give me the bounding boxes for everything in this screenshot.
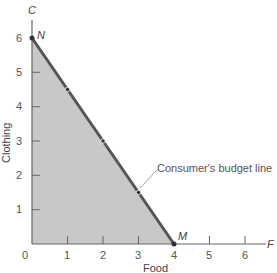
x-tick-label: 3 <box>135 249 141 261</box>
budget-line-chart: Consumer's budget line 1 2 3 4 5 6 0 1 2… <box>0 0 277 273</box>
y-tick-label: 1 <box>16 203 22 215</box>
y-tick-label: 6 <box>16 32 22 44</box>
x-axis-letter: F <box>267 238 275 250</box>
x-tick-label: 1 <box>64 249 70 261</box>
y-tick-label: 4 <box>16 100 22 112</box>
y-axis-title: Clothing <box>0 123 12 163</box>
y-tick-label: 3 <box>16 135 22 147</box>
point-label-m: M <box>178 230 188 242</box>
x-tick-label: 0 <box>22 249 28 261</box>
x-axis-title: Food <box>143 262 168 273</box>
point-label-n: N <box>37 29 45 41</box>
x-tick-label: 6 <box>242 249 248 261</box>
annotation-leader <box>140 170 157 188</box>
x-tick-label: 4 <box>171 249 177 261</box>
budget-line-annotation: Consumer's budget line <box>157 162 272 174</box>
x-tick-label: 2 <box>100 249 106 261</box>
y-axis-letter: C <box>28 4 36 16</box>
y-tick-label: 2 <box>16 169 22 181</box>
y-tick-label: 5 <box>16 66 22 78</box>
x-tick-label: 5 <box>206 249 212 261</box>
